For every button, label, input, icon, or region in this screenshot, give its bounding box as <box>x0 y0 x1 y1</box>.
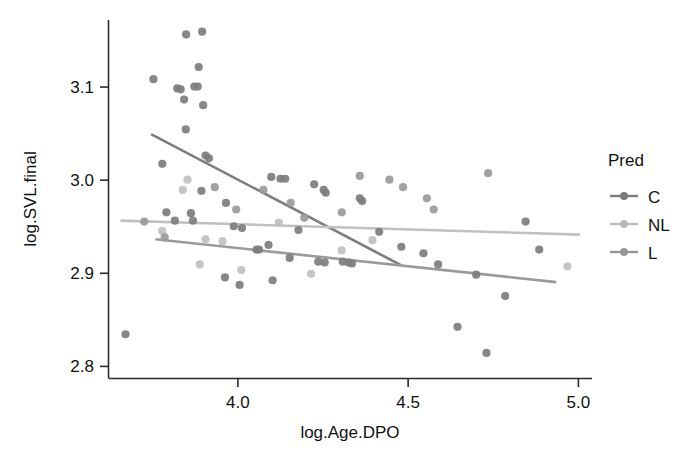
data-point <box>281 175 289 183</box>
data-point <box>321 258 329 266</box>
data-point <box>482 349 490 357</box>
legend-key-point-icon <box>620 248 628 256</box>
x-tick-label: 4.0 <box>226 393 250 412</box>
data-point <box>264 241 272 249</box>
data-point <box>269 276 277 284</box>
data-point <box>275 218 283 226</box>
data-point <box>368 236 376 244</box>
data-point <box>385 176 393 184</box>
legend-title: Pred <box>608 151 644 170</box>
data-point <box>201 235 209 243</box>
data-point <box>149 75 157 83</box>
data-point <box>287 199 295 207</box>
regression-line <box>155 239 556 282</box>
y-axis-title: log.SVL.final <box>21 151 40 246</box>
legend-key-point-icon <box>620 220 628 228</box>
data-point <box>177 85 185 93</box>
data-point <box>235 281 243 289</box>
data-point <box>255 245 263 253</box>
x-tick-label: 4.5 <box>396 393 420 412</box>
data-point <box>310 180 318 188</box>
data-point <box>230 222 238 230</box>
data-point <box>259 186 267 194</box>
data-point <box>348 259 356 267</box>
data-point <box>189 217 197 225</box>
data-point <box>218 237 226 245</box>
data-point <box>221 273 229 281</box>
data-point <box>182 125 190 133</box>
data-point <box>472 271 480 279</box>
data-point <box>358 197 366 205</box>
data-point <box>180 96 188 104</box>
data-point <box>267 173 275 181</box>
data-point <box>294 226 302 234</box>
data-point <box>222 199 230 207</box>
data-point <box>158 160 166 168</box>
data-point <box>196 260 204 268</box>
data-point <box>187 209 195 217</box>
data-point <box>430 205 438 213</box>
data-point <box>453 323 461 331</box>
data-point <box>522 218 530 226</box>
data-point <box>338 246 346 254</box>
data-point <box>286 254 294 262</box>
data-point <box>338 208 346 216</box>
data-point <box>307 270 315 278</box>
data-point <box>211 183 219 191</box>
data-point <box>179 186 187 194</box>
data-point <box>238 224 246 232</box>
legend-item-nl[interactable]: NL <box>610 216 670 235</box>
data-point <box>419 249 427 257</box>
chart-figure: 2.82.93.03.1 4.04.55.0 log.Age.DPO log.S… <box>0 0 694 465</box>
y-tick-label: 2.8 <box>70 357 94 376</box>
data-point <box>161 233 169 241</box>
data-point <box>434 260 442 268</box>
data-point <box>356 172 364 180</box>
data-point <box>182 30 190 38</box>
legend-items[interactable]: CNLL <box>610 188 670 263</box>
data-point <box>199 101 207 109</box>
data-point <box>397 243 405 251</box>
legend-item-c[interactable]: C <box>610 188 660 207</box>
regression-line <box>120 221 580 235</box>
legend-key-point-icon <box>620 192 628 200</box>
y-axis-ticks: 2.82.93.03.1 <box>70 78 108 376</box>
x-axis-title: log.Age.DPO <box>300 423 399 442</box>
data-points <box>121 28 571 357</box>
data-point <box>195 63 203 71</box>
x-axis-ticks: 4.04.55.0 <box>226 379 590 413</box>
data-point <box>237 266 245 274</box>
y-tick-label: 3.0 <box>70 171 94 190</box>
data-point <box>501 292 509 300</box>
data-point <box>322 189 330 197</box>
data-point <box>205 154 213 162</box>
data-point <box>162 208 170 216</box>
legend-item-label: NL <box>648 216 670 235</box>
data-point <box>183 176 191 184</box>
data-point <box>563 262 571 270</box>
data-point <box>484 169 492 177</box>
data-point <box>121 330 129 338</box>
x-tick-label: 5.0 <box>567 393 591 412</box>
scatter-plot-svg: 2.82.93.03.1 4.04.55.0 log.Age.DPO log.S… <box>0 0 694 465</box>
data-point <box>300 214 308 222</box>
data-point <box>375 228 383 236</box>
data-point <box>197 187 205 195</box>
y-tick-label: 2.9 <box>70 264 94 283</box>
data-point <box>198 28 206 36</box>
data-point <box>423 194 431 202</box>
legend-item-label: C <box>648 188 660 207</box>
data-point <box>171 217 179 225</box>
data-point <box>535 245 543 253</box>
legend-item-l[interactable]: L <box>610 244 657 263</box>
data-point <box>232 205 240 213</box>
legend-item-label: L <box>648 244 657 263</box>
data-point <box>399 183 407 191</box>
y-tick-label: 3.1 <box>70 78 94 97</box>
data-point <box>140 218 148 226</box>
data-point <box>194 82 202 90</box>
